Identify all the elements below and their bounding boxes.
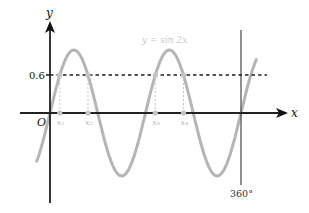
intersection-label: x₂ (85, 118, 93, 127)
intersection-drop-lines (60, 75, 184, 113)
intersection-dot (153, 73, 158, 78)
intersection-label: x₁ (57, 118, 65, 127)
intersection-dot (85, 110, 90, 115)
sine-graph-figure: y x O 0.6 360° y = sin 2x x₁x₂x₃x₄ (0, 0, 309, 213)
function-label: y = sin 2x (141, 35, 187, 45)
intersection-label: x₃ (152, 118, 160, 127)
plot-area: y x O 0.6 360° y = sin 2x x₁x₂x₃x₄ (0, 0, 309, 213)
intersection-dot (181, 73, 186, 78)
intersection-label: x₄ (180, 118, 188, 127)
intersection-dot (85, 73, 90, 78)
intersection-dot (57, 110, 62, 115)
intersection-dot (153, 110, 158, 115)
intersection-labels: x₁x₂x₃x₄ (57, 118, 188, 127)
intersection-dot (181, 110, 186, 115)
origin-label: O (37, 116, 46, 129)
y-axis-label: y (45, 6, 53, 20)
y-marker-label: 0.6 (29, 70, 45, 81)
intersection-dot (57, 73, 62, 78)
intersection-points (57, 73, 186, 116)
x-marker-label: 360° (230, 188, 253, 199)
x-axis-label: x (291, 106, 298, 120)
